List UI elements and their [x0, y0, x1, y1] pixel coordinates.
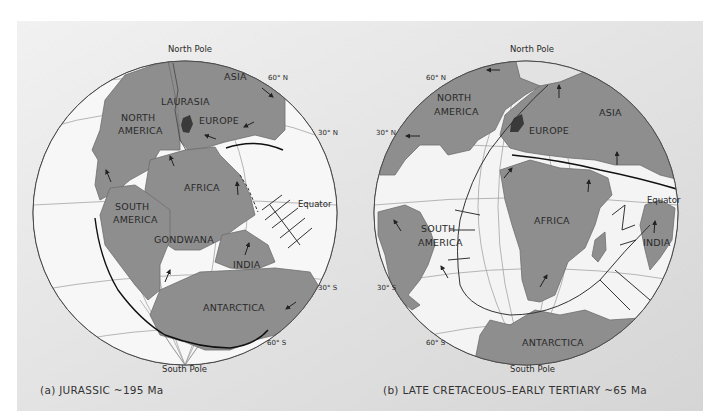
- lat-30n-label-a: 30° N: [318, 129, 338, 137]
- north-america-label-a-2: AMERICA: [118, 125, 163, 136]
- laurasia-label-a: LAURASIA: [161, 96, 210, 107]
- south-america-label-b-1: SOUTH: [421, 223, 455, 234]
- asia-label-a: ASIA: [224, 71, 247, 82]
- lat-60s-label-b: 60° S: [426, 339, 446, 347]
- lat-60s-label-a: 60° S: [267, 339, 287, 347]
- lat-60n-label-a: 60° N: [268, 74, 288, 82]
- antarctica-label-b: ANTARCTICA: [522, 337, 584, 348]
- africa-label-b: AFRICA: [534, 215, 570, 226]
- south-pole-label-a: South Pole: [162, 364, 207, 374]
- lat-30n-label-b: 30° N: [376, 129, 396, 137]
- gondwana-label-a: GONDWANA: [154, 234, 214, 245]
- north-pole-label-b: North Pole: [510, 44, 554, 54]
- south-america-label-a-2: AMERICA: [113, 214, 158, 225]
- north-america-label-b-1: NORTH: [437, 92, 471, 103]
- north-pole-label-a: North Pole: [168, 44, 212, 54]
- india-label-a: INDIA: [233, 259, 261, 270]
- lat-60n-label-b: 60° N: [426, 74, 446, 82]
- antarctica-label-a: ANTARCTICA: [203, 302, 265, 313]
- lat-30s-label-b: 30° S: [377, 284, 397, 292]
- india-label-b: INDIA: [643, 237, 671, 248]
- south-america-label-a-1: SOUTH: [115, 201, 149, 212]
- continental-drift-figure: North Pole South Pole 60° N 30° N Equato…: [0, 0, 720, 420]
- south-pole-label-b: South Pole: [510, 364, 555, 374]
- equator-label-a: Equator: [298, 199, 332, 209]
- africa-label-a: AFRICA: [184, 182, 220, 193]
- asia-label-b: ASIA: [599, 107, 622, 118]
- south-america-label-b-2: AMERICA: [418, 237, 463, 248]
- north-america-label-a-1: NORTH: [121, 112, 155, 123]
- equator-label-b: Equator: [647, 195, 681, 205]
- north-america-label-b-2: AMERICA: [434, 106, 479, 117]
- caption-b: (b) LATE CRETACEOUS–EARLY TERTIARY ~65 M…: [383, 384, 647, 396]
- europe-label-a: EUROPE: [199, 115, 239, 126]
- lat-30s-label-a: 30° S: [318, 284, 338, 292]
- caption-a: (a) JURASSIC ~195 Ma: [40, 384, 164, 396]
- europe-label-b: EUROPE: [529, 125, 569, 136]
